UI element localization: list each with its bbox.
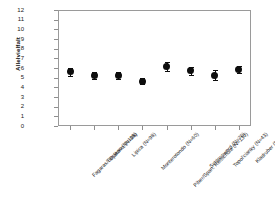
y-tick-mark (54, 116, 58, 117)
y-tick-mark (54, 39, 58, 40)
x-tick-mark (239, 126, 240, 130)
y-tick-mark (54, 126, 58, 127)
y-tick-label: 1 (6, 113, 24, 119)
marker-dot (91, 72, 98, 79)
x-tick-mark (118, 126, 119, 130)
y-tick-label: 0 (6, 123, 24, 129)
y-tick-mark (54, 87, 58, 88)
x-tick-mark (94, 126, 95, 130)
y-tick-label: 9 (6, 36, 24, 42)
x-axis-label: Monterotondo (N=60) (160, 131, 200, 171)
y-tick-mark (54, 107, 58, 108)
x-tick-mark (191, 126, 192, 130)
y-tick-label: 6 (6, 65, 24, 71)
y-tick-label: 11 (6, 16, 24, 22)
error-bar-cap (213, 80, 218, 81)
y-tick-mark (54, 68, 58, 69)
marker-dot (67, 68, 74, 75)
y-tick-mark (54, 29, 58, 30)
error-bar-cap (237, 73, 242, 74)
error-bar-cap (189, 75, 194, 76)
error-bar-cap (116, 79, 121, 80)
x-tick-mark (215, 126, 216, 130)
y-tick-mark (54, 78, 58, 79)
y-tick-mark (54, 97, 58, 98)
x-tick-mark (142, 126, 143, 130)
y-tick-mark (54, 10, 58, 11)
plot-area (58, 10, 251, 126)
marker-dot (139, 78, 146, 85)
error-bar-cap (92, 79, 97, 80)
y-tick-label: 12 (6, 7, 24, 13)
y-tick-mark (54, 20, 58, 21)
y-tick-mark (54, 49, 58, 50)
y-tick-label: 4 (6, 84, 24, 90)
marker-dot (115, 72, 122, 79)
error-bar-cap (165, 71, 170, 72)
y-tick-label: 7 (6, 55, 24, 61)
y-tick-label: 3 (6, 94, 24, 100)
x-tick-mark (167, 126, 168, 130)
y-tick-mark (54, 58, 58, 59)
y-tick-label: 5 (6, 74, 24, 80)
y-tick-label: 2 (6, 103, 24, 109)
x-tick-mark (70, 126, 71, 130)
y-tick-label: 10 (6, 26, 24, 32)
y-tick-label: 8 (6, 45, 24, 51)
error-bar-cap (68, 76, 73, 77)
chart-figure: Allelvielfalt 1211109876543210 Fagaras/B… (0, 0, 275, 217)
